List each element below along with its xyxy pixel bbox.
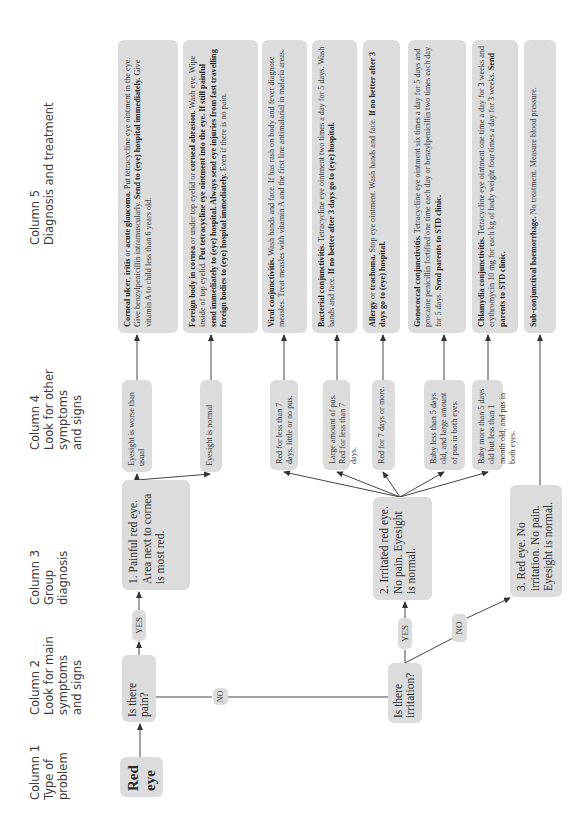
column-4-subtitle: symptoms	[56, 369, 70, 450]
sign-box: Baby less than 5 days old, and large amo…	[424, 380, 465, 470]
treatment-box: Allergy or trachoma. Stop eye ointment. …	[363, 40, 400, 333]
sign-box: Red for less than 7 days, little or no p…	[270, 380, 298, 470]
treatment-text: ,	[123, 275, 132, 279]
treatment-text: or	[368, 290, 377, 301]
sign-box: Eyesight is normal	[200, 380, 222, 472]
treatment-emphasis: trachoma.	[368, 254, 377, 290]
treatment-text: or	[123, 248, 132, 259]
no-label-pain: NO	[213, 688, 228, 705]
red-eye-flowchart: Column 1 Type of problem Column 2 Look f…	[0, 0, 586, 831]
column-3-subtitle: diagnosis	[56, 550, 70, 605]
arrow-group2-sign3	[284, 472, 400, 497]
sign-box: Baby more than 5 days old but less than …	[472, 380, 503, 470]
treatment-emphasis: Foreign body in cornea	[188, 246, 197, 327]
treatment-emphasis: corneal abrasion.	[188, 110, 197, 171]
treatment-emphasis: Chlamydia conjunctivitis.	[477, 237, 486, 327]
treatment-emphasis: Send to (eye) hospital immediately.	[133, 78, 142, 200]
column-3-header: Column 3 Group diagnosis	[28, 550, 70, 605]
sign-box: Eyesight is worse than usual	[122, 380, 152, 472]
treatment-emphasis: Sub-conjunctival haemorrhage.	[529, 216, 538, 327]
arrow-group2-sign6	[400, 472, 444, 497]
column-1-header: Column 1 Type of problem	[28, 745, 70, 800]
yes-label-irritation: YES	[398, 618, 412, 649]
column-4-subtitle: and signs	[70, 369, 84, 450]
treatment-box: Gonococcal conjunctivitis. Tetracycline …	[408, 40, 466, 333]
treatment-box: Corneal ulcer, iritis or acute glaucoma.…	[118, 40, 178, 333]
column-2-subtitle: Look for main	[42, 636, 56, 715]
treatment-text: or under top eyelid or	[188, 171, 197, 246]
treatment-emphasis: If no better after 3 days go to (eye) ho…	[327, 122, 336, 274]
treatment-box: Foreign body in cornea or under top eyel…	[183, 40, 258, 333]
column-1-subtitle: Type of	[42, 745, 56, 800]
treatment-box: Sub-conjunctival haemorrhage. No treatme…	[524, 40, 556, 333]
treatment-emphasis: Corneal ulcer	[123, 279, 132, 327]
treatment-box: Chlamydia conjunctivitis. Tetracycline e…	[472, 40, 518, 333]
group-diagnosis-1: 1. Painful red eye. Area next to cornea …	[122, 480, 190, 590]
treatment-emphasis: Viral conjunctivitis.	[267, 258, 276, 327]
arrow-group2-sign7	[400, 472, 488, 497]
treatment-text: No treatment. Measure blood pressure.	[529, 87, 538, 216]
problem-label: eye	[142, 763, 159, 791]
group-diagnosis-3: 3. Red eye. No irritation. No pain. Eyes…	[510, 485, 562, 597]
column-5-title: Column 5	[28, 102, 42, 245]
arrow-no-to-group3	[467, 598, 510, 618]
treatment-box: Viral conjunctivitis. Wash hands and fac…	[262, 40, 307, 333]
yes-label-pain: YES	[132, 610, 146, 641]
problem-label: Red	[125, 763, 142, 791]
treatment-text: Stop eye ointment. Wash hands and face.	[368, 116, 377, 254]
treatment-box: Bacterial conjunctivitis. Tetracycline e…	[312, 40, 357, 333]
question-irritation: Is there irritation?	[388, 663, 422, 723]
treatment-emphasis: iritis	[123, 259, 132, 275]
column-2-title: Column 2	[28, 636, 42, 715]
treatment-emphasis: acute glaucoma.	[123, 191, 132, 247]
treatment-emphasis: Bacterial conjunctivitis.	[317, 244, 326, 327]
column-2-subtitle: symptoms	[56, 636, 70, 715]
column-4-subtitle: Look for other	[42, 369, 56, 450]
group-diagnosis-2: 2. Irritated red eye. No pain. Eyesight …	[373, 497, 432, 600]
treatment-text: Even if there is no pain.	[219, 93, 228, 173]
column-4-header: Column 4 Look for other symptoms and sig…	[28, 369, 84, 450]
column-2-header: Column 2 Look for main symptoms and sign…	[28, 636, 84, 715]
column-2-subtitle: and signs	[70, 636, 84, 715]
line-irritation-no	[405, 638, 453, 663]
column-5-subtitle: Diagnosis and treatment	[42, 102, 56, 245]
treatment-emphasis: Gonococcal conjunctivitis.	[413, 235, 422, 327]
column-1-subtitle: problem	[56, 745, 70, 800]
column-1-title: Column 1	[28, 745, 42, 800]
column-3-title: Column 3	[28, 550, 42, 605]
question-pain-text: Is there pain?	[126, 683, 150, 717]
arrow-group2-sign4	[337, 472, 400, 497]
treatment-emphasis: Send parents to STD clinic.	[434, 195, 443, 290]
column-3-subtitle: Group	[42, 550, 56, 605]
sign-box: Large amount of pus. Red for less than 7…	[323, 380, 350, 470]
column-5-header: Column 5 Diagnosis and treatment	[28, 102, 56, 245]
treatment-emphasis: Allergy	[368, 301, 377, 327]
column-4-title: Column 4	[28, 369, 42, 450]
problem-box-red-eye: Red eye	[120, 757, 163, 797]
sign-box: Red for 7 days or more.	[372, 380, 395, 470]
no-label-irritation: NO	[452, 614, 467, 642]
question-irritation-text: Is there irritation?	[392, 673, 416, 718]
question-pain: Is there pain?	[122, 655, 156, 722]
